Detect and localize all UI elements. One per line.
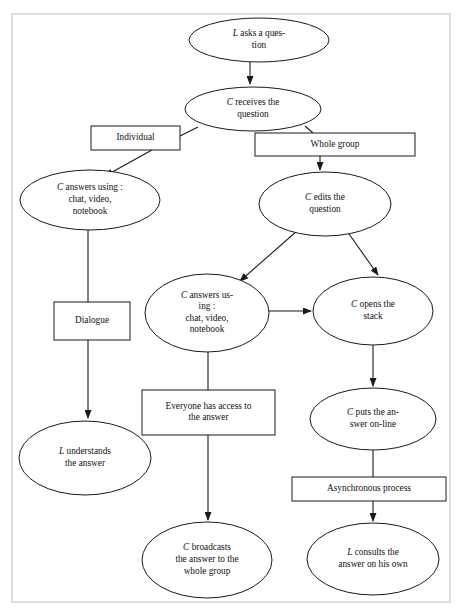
flowchart-diagram: L asks a ques-tionC receives thequestion…: [0, 0, 460, 616]
flowchart-canvas: L asks a ques-tionC receives thequestion…: [0, 0, 460, 616]
edge-c-edits-question-to-c-answers-group: [240, 231, 297, 281]
node-c-puts-answer-online: C puts the an-swer on-line: [310, 388, 436, 450]
node-individual: Individual: [91, 126, 180, 150]
edge-c-receives-question-to-whole-group: [305, 126, 313, 133]
node-c-opens-stack: C opens thestack: [313, 277, 433, 345]
edge-c-edits-question-to-c-opens-stack: [347, 231, 378, 275]
node-c-edits-question: C edits thequestion: [259, 172, 391, 236]
node-l-consults-answer: L consults theanswer on his own: [307, 523, 439, 595]
node-c-answers-group: C answers us-ing :chat, video,notebook: [145, 274, 269, 352]
node-label-c-puts-answer-online: C puts the an-swer on-line: [347, 407, 399, 429]
node-asynchronous-process: Asynchronous process: [292, 477, 446, 501]
node-label-whole-group: Whole group: [311, 139, 360, 149]
node-label-c-edits-question: C edits thequestion: [305, 192, 345, 214]
node-label-individual: Individual: [116, 132, 155, 142]
node-c-receives-question: C receives thequestion: [185, 87, 321, 131]
node-dialogue: Dialogue: [54, 302, 130, 340]
node-label-asynchronous-process: Asynchronous process: [327, 483, 411, 493]
node-whole-group: Whole group: [255, 133, 415, 156]
node-l-asks-question: L asks a ques-tion: [189, 18, 329, 62]
node-c-broadcasts: C broadcaststhe answer to thewhole group: [142, 522, 272, 598]
nodes-group: L asks a ques-tionC receives thequestion…: [19, 18, 446, 598]
node-label-c-broadcasts: C broadcaststhe answer to thewhole group: [175, 543, 238, 576]
node-l-understands-answer: L understandsthe answer: [19, 421, 151, 495]
node-label-dialogue: Dialogue: [75, 315, 109, 325]
node-label-l-understands-answer: L understandsthe answer: [58, 446, 111, 468]
node-everyone-access: Everyone has access tothe answer: [142, 390, 275, 435]
node-label-l-consults-answer: L consults theanswer on his own: [338, 547, 408, 569]
node-c-answers-individual: C answers using :chat, video,notebook: [20, 170, 160, 230]
edge-c-receives-question-to-individual: [180, 127, 198, 136]
